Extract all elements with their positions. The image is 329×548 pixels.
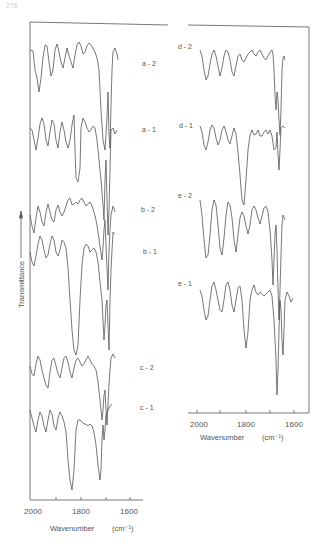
spectrum-a-2 [30,42,118,150]
right-x-tick-labels: 2000 1800 1600 [190,420,303,429]
left-x-ticks [56,497,130,500]
spectrum-d-1 [200,125,285,205]
right-panel-frame [188,25,309,413]
spectrum-d-2 [200,50,285,135]
spectrum-b-1 [30,232,115,355]
left-x-axis-unit: (cm⁻¹) [112,524,134,533]
svg-text:2000: 2000 [190,420,208,429]
ir-spectra-figure: a - 2 a - 1 b - 2 b - 1 c - 2 c - 1 d - … [0,0,329,548]
svg-text:1800: 1800 [237,420,255,429]
label-b-1: b - 1 [143,248,157,255]
series-labels: a - 2 a - 1 b - 2 b - 1 c - 2 c - 1 d - … [140,43,193,411]
transmittance-arrow [20,211,23,258]
label-a-2: a - 2 [142,60,156,67]
right-x-axis-unit: (cm⁻¹) [262,433,284,442]
spectrum-a-1 [30,115,117,235]
left-panel-frame [30,22,168,500]
svg-text:1800: 1800 [72,507,90,516]
label-d-1: d - 1 [179,122,193,129]
spectrum-c-1 [30,404,112,490]
svg-text:2000: 2000 [24,507,42,516]
svg-text:1600: 1600 [120,507,138,516]
label-e-1: e - 1 [178,280,192,287]
left-x-axis-title: Wavenumber [50,524,95,533]
label-c-1: c - 1 [140,404,154,411]
spectrum-c-2 [30,354,115,425]
right-x-ticks [197,410,294,413]
spectrum-e-1 [200,282,293,395]
y-axis-title: Transmittance [17,261,26,308]
label-e-2: e - 2 [178,192,192,199]
right-x-axis-title: Wavenumber [200,433,245,442]
svg-text:1600: 1600 [285,420,303,429]
left-x-tick-labels: 2000 1800 1600 [24,507,138,516]
label-b-2: b - 2 [141,206,155,213]
label-c-2: c - 2 [140,364,154,371]
label-a-1: a - 1 [142,126,156,133]
label-d-2: d - 2 [178,43,192,50]
